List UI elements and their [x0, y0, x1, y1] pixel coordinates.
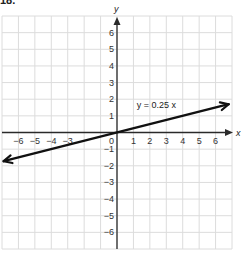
- y-tick-label: 6: [109, 28, 114, 38]
- y-tick-label: −5: [104, 211, 114, 221]
- y-tick-label: 3: [109, 78, 114, 88]
- x-tick-label: −4: [46, 136, 56, 146]
- y-axis-label: y: [113, 4, 119, 14]
- equation-label: y = 0.25 x: [137, 100, 177, 110]
- x-tick-label: −6: [13, 136, 23, 146]
- x-tick-label: 2: [147, 136, 152, 146]
- origin-label: 0: [109, 136, 114, 146]
- x-tick-label: 5: [197, 136, 202, 146]
- y-axis-arrow-icon: [114, 17, 121, 25]
- y-tick-label: −2: [104, 161, 114, 171]
- y-tick-label: −1: [104, 144, 114, 154]
- x-tick-label: 1: [131, 136, 136, 146]
- y-tick-label: 2: [109, 94, 114, 104]
- x-tick-label: 4: [180, 136, 185, 146]
- y-tick-label: 5: [109, 44, 114, 54]
- y-tick-label: −6: [104, 227, 114, 237]
- x-tick-label: 6: [213, 136, 218, 146]
- x-axis-label: x: [235, 128, 241, 138]
- y-tick-label: −3: [104, 177, 114, 187]
- y-tick-label: −4: [104, 194, 114, 204]
- x-tick-label: 3: [164, 136, 169, 146]
- x-tick-label: −5: [30, 136, 40, 146]
- coordinate-plane: −6−5−4−3123456654321−1−2−3−4−5−60 x y y …: [0, 0, 241, 255]
- y-tick-label: 4: [109, 61, 114, 71]
- y-tick-label: 1: [109, 111, 114, 121]
